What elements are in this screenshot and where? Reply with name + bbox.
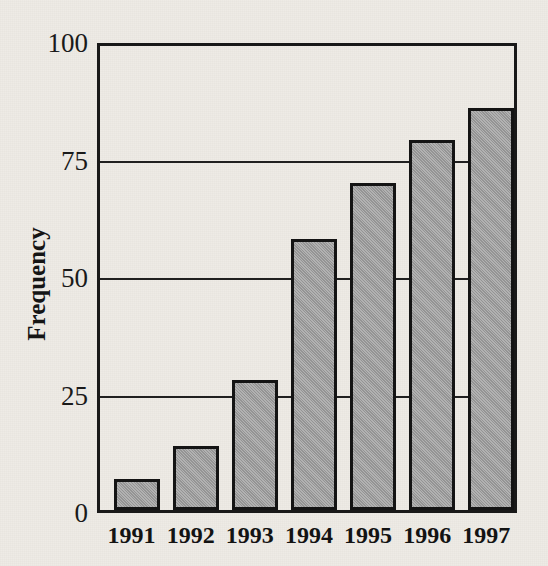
y-axis-tick-labels: 100 75 50 25 0 — [0, 0, 88, 566]
x-tick-label-1997: 1997 — [462, 516, 508, 554]
x-tick-label-1992: 1992 — [167, 516, 213, 554]
bar-1991 — [114, 479, 160, 510]
bar-1996 — [409, 140, 455, 510]
x-tick-label-1991: 1991 — [108, 516, 154, 554]
x-tick-label-1994: 1994 — [285, 516, 331, 554]
x-tick-label-1993: 1993 — [226, 516, 272, 554]
bar-1994 — [291, 239, 337, 510]
y-tick-label-50: 50 — [0, 265, 88, 292]
plot-inner — [100, 46, 514, 510]
bar-1997 — [468, 108, 514, 511]
bar-1992 — [173, 446, 219, 510]
x-tick-label-1996: 1996 — [403, 516, 449, 554]
y-tick-label-0: 0 — [0, 500, 88, 527]
bar-1993 — [232, 380, 278, 510]
plot-area — [97, 43, 517, 513]
y-tick-label-25: 25 — [0, 382, 88, 409]
bar-1995 — [350, 183, 396, 510]
x-axis-tick-labels: 1991199219931994199519961997 — [97, 516, 517, 556]
y-tick-label-75: 75 — [0, 147, 88, 174]
x-tick-label-1995: 1995 — [344, 516, 390, 554]
bar-chart: Frequency 100 75 50 25 0 199119921993199… — [0, 0, 548, 566]
y-tick-label-100: 100 — [0, 30, 88, 57]
bar-series — [100, 46, 514, 510]
